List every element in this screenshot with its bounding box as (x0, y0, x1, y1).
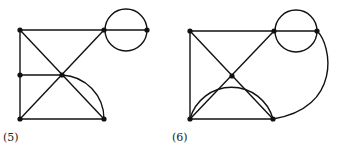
node (229, 73, 234, 78)
node (101, 116, 106, 121)
node (101, 27, 106, 32)
node (314, 28, 319, 33)
node (187, 116, 192, 121)
node (271, 28, 276, 33)
node (187, 28, 192, 33)
node (144, 27, 149, 32)
node (17, 72, 22, 77)
node (17, 116, 22, 121)
figure-5: (5) (3, 9, 150, 144)
semicircle-edge (190, 87, 273, 119)
graph-diagrams: (5) (6) (0, 0, 338, 154)
node (17, 27, 22, 32)
figure-label: (6) (172, 131, 188, 144)
outer-arc-edge (273, 31, 328, 119)
figure-label: (5) (3, 131, 19, 144)
node (270, 116, 275, 121)
node (59, 72, 64, 77)
figure-6: (6) (172, 10, 328, 144)
